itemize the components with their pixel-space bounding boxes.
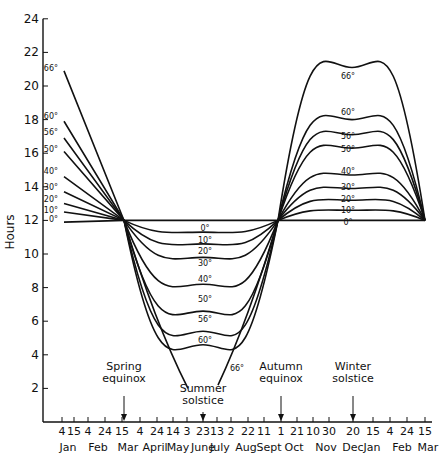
x-month-label: Dec [342,441,363,454]
right-latitude-label: 40° [341,167,355,176]
y-tick-label: 12 [24,213,39,227]
curve-labels: 0°0°0°10°10°10°20°20°20°30°30°30°40°40°4… [44,64,355,373]
arrowhead-icon [200,414,206,421]
mid-latitude-label: 40° [198,275,212,284]
y-tick-label: 2 [31,381,39,395]
mid-latitude-label: 56° [198,315,212,324]
mid-latitude-label: 66° [230,364,244,373]
right-latitude-label: 0° [343,218,352,227]
mid-latitude-label: 20° [198,247,212,256]
x-day-label: 15 [418,425,432,438]
right-latitude-label: 50° [341,145,355,154]
y-tick-label: 24 [24,12,39,26]
x-day-label: 15 [366,425,380,438]
x-day-label: 21 [290,425,304,438]
x-month-label: Oct [284,441,304,454]
left-latitude-label: 60° [44,112,58,121]
x-day-label: 15 [115,425,129,438]
mid-latitude-label: 50° [198,295,212,304]
mid-latitude-label: 0° [200,224,209,233]
y-tick-label: 16 [24,146,39,160]
x-day-label: 4 [137,425,144,438]
left-latitude-label: 20° [44,195,58,204]
left-latitude-label: 40° [44,167,58,176]
left-latitude-label: 0° [49,215,58,224]
x-day-label: 3 [184,425,191,438]
x-month-label: Jan [363,441,381,454]
x-day-label: 15 [67,425,81,438]
curve-50deg [64,145,425,315]
y-tick-label: 6 [31,314,39,328]
mid-latitude-label: 60° [198,336,212,345]
annotation-label: equinox [259,372,303,385]
x-day-label: 23 [196,425,210,438]
x-day-label: 24 [400,425,414,438]
left-latitude-label: 50° [44,145,58,154]
y-tick-label: 10 [24,247,39,261]
right-latitude-label: 60° [341,108,355,117]
x-day-label: 4 [85,425,92,438]
x-day-label: 4 [387,425,394,438]
x-day-label: 13 [210,425,224,438]
arrowhead-icon [350,414,356,421]
left-latitude-label: 66° [44,64,58,73]
curve-0deg [64,220,425,222]
right-latitude-label: 10° [341,206,355,215]
left-latitude-label: 30° [44,183,58,192]
y-tick-label: 8 [31,281,39,295]
x-day-label: 2 [228,425,235,438]
annotation-label: solstice [182,394,224,407]
x-month-label: April [142,441,167,454]
x-day-label: 1 [278,425,285,438]
mid-latitude-label: 10° [198,236,212,245]
x-month-label: Feb [392,441,411,454]
x-month-label: May [167,441,190,454]
arrowhead-icon [278,414,284,421]
latitude-curves [64,61,425,388]
right-latitude-label: 66° [341,72,355,81]
annotation-label: solstice [332,372,374,385]
x-day-label: 24 [150,425,164,438]
x-day-label: 30 [322,425,336,438]
y-tick-label: 4 [31,348,39,362]
x-day-label: 4 [59,425,66,438]
curve-40deg [64,173,425,287]
x-day-label: 11 [257,425,271,438]
x-month-label: July [209,441,230,454]
curve-30deg [64,187,425,259]
left-latitude-label: 10° [44,206,58,215]
x-day-label: 22 [241,425,255,438]
x-month-label: Nov [315,441,337,454]
y-axis-label: Hours [3,214,17,249]
x-month-label: Mar [118,441,139,454]
y-tick-label: 22 [24,45,39,59]
curve-60deg [64,115,425,349]
x-month-label: Feb [88,441,107,454]
right-latitude-label: 20° [341,195,355,204]
x-month-label: Aug [235,441,256,454]
right-latitude-label: 30° [341,183,355,192]
y-tick-label: 18 [24,113,39,127]
annotation-label: equinox [102,372,146,385]
y-tick-label: 14 [24,180,39,194]
mid-latitude-label: 30° [198,259,212,268]
x-day-label: 24 [98,425,112,438]
x-day-label: 20 [346,425,360,438]
x-month-label: Sept [256,441,282,454]
curve-56deg [64,131,425,336]
left-latitude-label: 56° [44,128,58,137]
y-tick-label: 20 [24,79,39,93]
right-latitude-label: 56° [341,132,355,141]
x-month-label: Jan [59,441,77,454]
x-day-label: 10 [306,425,320,438]
x-day-label: 14 [166,425,180,438]
x-month-label: Mar [418,441,439,454]
chart-canvas: 2468101214161820222441542415424143231322… [0,0,443,461]
daylength-chart: 2468101214161820222441542415424143231322… [0,0,443,461]
